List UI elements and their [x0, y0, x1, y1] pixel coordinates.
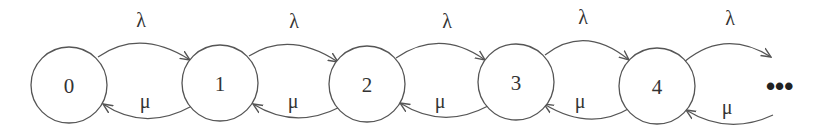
rate-label-mu: μ [288, 90, 299, 113]
markov-chain-diagram: λ λ λ λ λ μ μ μ μ μ 0 1 2 3 4 ••• [0, 0, 822, 138]
rate-label-lambda: λ [136, 9, 146, 31]
state-label: 3 [511, 71, 522, 95]
state-2: 2 [329, 46, 405, 122]
edge-3-to-4 [545, 41, 629, 60]
state-0: 0 [31, 47, 107, 123]
rate-label-mu: μ [575, 90, 586, 113]
state-1: 1 [182, 45, 258, 121]
rate-label-mu: μ [140, 90, 151, 113]
rate-label-lambda: λ [725, 7, 735, 29]
edge-1-to-2 [249, 44, 338, 62]
rate-label-mu: μ [435, 90, 446, 113]
rate-label-lambda: λ [442, 10, 452, 32]
state-label: 0 [64, 74, 75, 98]
state-label: 1 [215, 72, 226, 96]
state-4: 4 [619, 48, 695, 124]
state-3: 3 [478, 44, 554, 120]
state-label: 4 [652, 75, 663, 99]
edge-4-to-3 [544, 104, 630, 119]
ellipsis: ••• [766, 71, 793, 101]
state-label: 2 [362, 73, 373, 97]
edge-4-to-next [684, 44, 771, 62]
edge-2-to-3 [396, 43, 485, 60]
rate-label-lambda: λ [578, 6, 588, 28]
edge-0-to-1 [98, 43, 190, 60]
rate-label-lambda: λ [289, 10, 299, 32]
rate-label-mu: μ [722, 96, 733, 119]
